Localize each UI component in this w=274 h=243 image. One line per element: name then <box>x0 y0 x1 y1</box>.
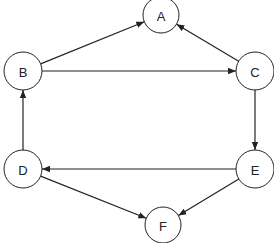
edge-c-to-a <box>177 24 239 61</box>
edges-layer <box>23 22 255 219</box>
node-e: E <box>236 150 274 188</box>
node-label: F <box>159 219 167 234</box>
node-label: C <box>250 65 259 80</box>
node-label: D <box>18 163 27 178</box>
node-label: B <box>19 65 28 80</box>
node-label: A <box>157 9 166 24</box>
node-f: F <box>145 207 181 243</box>
edge-e-to-f <box>178 179 238 216</box>
node-a: A <box>143 0 179 33</box>
edge-b-to-a <box>41 22 145 64</box>
node-d: D <box>4 150 42 188</box>
node-label: E <box>251 163 260 178</box>
edge-d-to-f <box>41 176 147 218</box>
node-b: B <box>4 52 42 90</box>
node-c: C <box>236 52 274 90</box>
nodes-layer: ABCDEF <box>4 0 274 243</box>
directed-graph: ABCDEF <box>0 0 274 243</box>
